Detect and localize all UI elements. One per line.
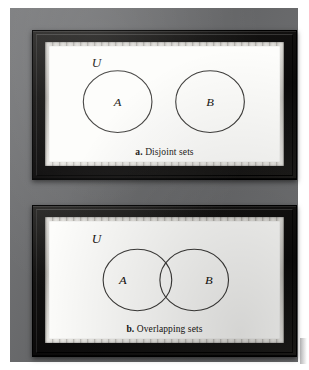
scan-artifact: [300, 338, 307, 364]
caption-text-disjoint: Disjoint sets: [145, 147, 194, 157]
framed-diagram-disjoint: U A B a. Disjoint sets: [32, 30, 297, 180]
caption-letter-disjoint: a.: [135, 147, 142, 157]
caption-overlapping: b. Overlapping sets: [49, 324, 280, 334]
set-label-b-disjoint: B: [206, 95, 214, 108]
set-circle-a-overlapping: [103, 249, 172, 310]
set-label-a-disjoint: A: [113, 95, 122, 108]
venn-diagram-disjoint: U A B: [49, 46, 280, 162]
caption-text-overlapping: Overlapping sets: [137, 324, 203, 334]
framed-diagram-overlapping: U A B b. Overlapping sets: [32, 205, 297, 357]
frame-mat-disjoint: U A B a. Disjoint sets: [45, 42, 284, 166]
set-circle-b-overlapping: [160, 249, 229, 310]
universe-label-overlapping: U: [92, 233, 103, 246]
frame-mat-overlapping: U A B b. Overlapping sets: [45, 217, 284, 343]
caption-disjoint: a. Disjoint sets: [49, 147, 280, 157]
universe-label-disjoint: U: [92, 57, 103, 70]
figure-page: U A B a. Disjoint sets: [0, 0, 309, 370]
photo-backdrop: U A B a. Disjoint sets: [10, 8, 298, 362]
diagram-canvas-overlapping: U A B b. Overlapping sets: [49, 221, 280, 339]
venn-diagram-overlapping: U A B: [49, 221, 280, 339]
set-label-a-overlapping: A: [118, 274, 127, 287]
caption-letter-overlapping: b.: [126, 324, 134, 334]
set-label-b-overlapping: B: [205, 274, 213, 287]
diagram-canvas-disjoint: U A B a. Disjoint sets: [49, 46, 280, 162]
